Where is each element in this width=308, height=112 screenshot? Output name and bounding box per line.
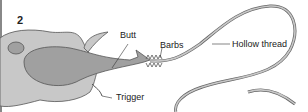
label-hollow-thread: Hollow thread <box>232 39 287 49</box>
stage-number: 2 <box>17 14 23 26</box>
nematocyst-illustration <box>0 0 308 112</box>
label-barbs: Barbs <box>160 40 184 50</box>
label-trigger: Trigger <box>116 92 144 102</box>
trigger <box>92 84 102 96</box>
label-butt: Butt <box>120 30 136 40</box>
operculum-flap <box>84 32 108 52</box>
nucleus <box>8 42 24 54</box>
hollow-thread-inner <box>150 6 295 112</box>
nematocyst-diagram: 2 Butt Barbs Hollow thread Trigger <box>0 0 308 112</box>
trigger-leader <box>102 96 112 98</box>
